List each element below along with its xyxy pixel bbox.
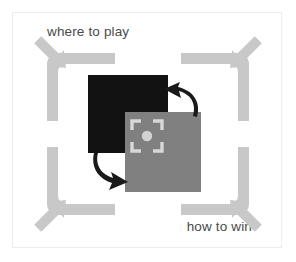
curved-arrow-down-right-icon [92,152,132,192]
diagram-canvas: where to play how to win [0,0,296,262]
curved-arrow-up-left-icon [163,82,201,118]
focus-target-icon [130,119,164,153]
